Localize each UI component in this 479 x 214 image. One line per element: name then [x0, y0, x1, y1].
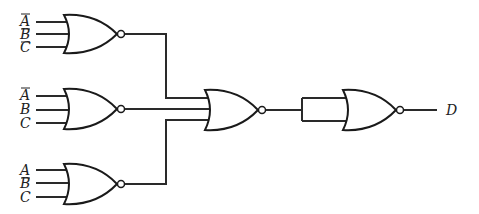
input-label: C: [20, 189, 31, 205]
output-label: D: [445, 102, 457, 118]
nor-gate-2: A B C: [18, 87, 125, 131]
logic-circuit: A B C A B C A B C: [0, 0, 479, 214]
nor-gate-3: A B C: [18, 162, 125, 205]
nor-gate-4: [205, 90, 266, 130]
nor-gate-5: D: [343, 90, 457, 130]
input-label: C: [20, 39, 31, 55]
interconnect-wires: [125, 34, 212, 184]
feedback-wires: [266, 98, 350, 121]
nor-gate-1: A B C: [18, 13, 125, 55]
input-label: C: [20, 115, 31, 131]
